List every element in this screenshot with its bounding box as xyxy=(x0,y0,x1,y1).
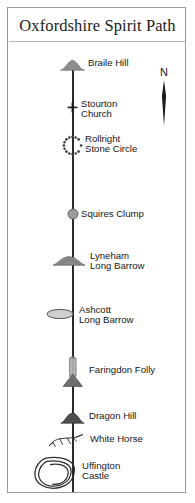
compass-north-label: N xyxy=(156,66,172,78)
site-label-white-horse: White Horse xyxy=(90,434,143,444)
site-label-stourton-church: Stourton Church xyxy=(81,99,117,120)
tree-clump-icon xyxy=(67,208,79,220)
long-barrow-oval-icon xyxy=(46,308,74,320)
site-label-rollright-stone-circle: Rollright Stone Circle xyxy=(85,134,137,155)
stone-circle-icon xyxy=(62,135,83,156)
site-label-braile-hill: Braile Hill xyxy=(88,58,129,68)
long-barrow-mound-icon xyxy=(52,255,86,266)
folly-tower-icon xyxy=(62,355,84,389)
title-divider xyxy=(9,41,186,42)
site-label-ashcott-long-barrow: Ashcott Long Barrow xyxy=(79,305,133,326)
white-horse-figure-icon xyxy=(46,432,84,449)
hill-mound-icon xyxy=(60,59,85,71)
page-title: Oxfordshire Spirit Path xyxy=(8,16,186,36)
north-arrow-needle-icon xyxy=(156,80,172,128)
site-label-faringdon-folly: Faringdon Folly xyxy=(89,365,155,375)
flat-top-hill-icon xyxy=(60,411,85,424)
site-label-dragon-hill: Dragon Hill xyxy=(89,411,136,421)
compass-rose: N xyxy=(156,66,172,132)
church-cross-icon xyxy=(67,102,78,113)
site-label-lyneham-long-barrow: Lyneham Long Barrow xyxy=(90,251,144,272)
hillfort-rampart-icon xyxy=(33,455,77,492)
site-label-squires-clump: Squires Clump xyxy=(81,209,144,219)
spirit-path-map: Oxfordshire Spirit Path N Braile Hill St… xyxy=(7,7,186,493)
site-label-uffington-castle: Uffington Castle xyxy=(82,461,120,482)
